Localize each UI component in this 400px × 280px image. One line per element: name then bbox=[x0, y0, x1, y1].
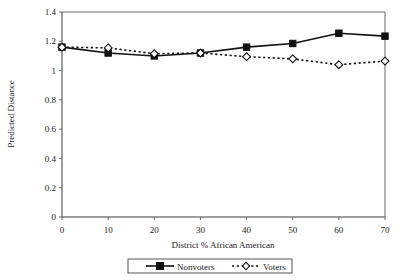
data-point-open-diamond bbox=[289, 55, 297, 63]
y-tick-label: 1 bbox=[52, 66, 57, 76]
x-tick-label: 70 bbox=[381, 225, 391, 235]
y-tick-label: 1.4 bbox=[45, 7, 57, 17]
line-chart-canvas: 00.20.40.60.811.21.4 010203040506070 Dis… bbox=[0, 0, 400, 280]
data-point-filled-square bbox=[290, 40, 296, 46]
y-axis-title: Predicted Distance bbox=[6, 80, 16, 148]
x-tick-label: 20 bbox=[150, 225, 160, 235]
x-tick-label: 40 bbox=[242, 225, 252, 235]
x-tick-label: 0 bbox=[60, 225, 65, 235]
data-point-filled-square bbox=[382, 33, 388, 39]
y-tick-label: 0.2 bbox=[45, 183, 56, 193]
chart-legend: Nonvoters Voters bbox=[128, 259, 292, 273]
y-tick-label: 1.2 bbox=[45, 36, 56, 46]
data-point-filled-square bbox=[243, 44, 249, 50]
plot-frame bbox=[62, 12, 385, 217]
y-tick-label: 0.6 bbox=[45, 124, 57, 134]
x-axis: 010203040506070 bbox=[60, 217, 390, 235]
data-point-open-diamond bbox=[243, 53, 251, 61]
y-tick-label: 0.4 bbox=[45, 154, 57, 164]
chart-figure: 00.20.40.60.811.21.4 010203040506070 Dis… bbox=[0, 0, 400, 280]
y-axis: 00.20.40.60.811.21.4 bbox=[45, 7, 62, 222]
x-tick-label: 10 bbox=[104, 225, 114, 235]
x-axis-title: District % African American bbox=[171, 240, 275, 250]
legend-label-voters: Voters bbox=[263, 262, 286, 272]
x-tick-label: 30 bbox=[196, 225, 206, 235]
y-tick-label: 0.8 bbox=[45, 95, 57, 105]
y-tick-label: 0 bbox=[52, 212, 57, 222]
legend-label-nonvoters: Nonvoters bbox=[177, 262, 215, 272]
series-layer bbox=[58, 30, 389, 69]
x-tick-label: 60 bbox=[334, 225, 344, 235]
legend-marker-filled-square-icon bbox=[157, 263, 164, 270]
data-point-open-diamond bbox=[381, 57, 389, 65]
data-point-filled-square bbox=[336, 30, 342, 36]
x-tick-label: 50 bbox=[288, 225, 298, 235]
data-point-open-diamond bbox=[335, 61, 343, 69]
legend-item-nonvoters[interactable]: Nonvoters bbox=[146, 262, 215, 272]
